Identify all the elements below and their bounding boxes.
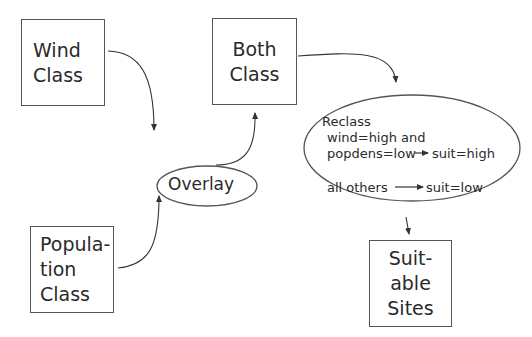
- edge-both-to-reclass: [298, 54, 396, 82]
- edge-reclass-to-suitable: [406, 217, 409, 234]
- both-class-line-1: Both: [232, 37, 276, 62]
- edge-population-to-overlay: [118, 196, 159, 268]
- both-class-node: Both Class: [212, 18, 297, 105]
- reclass-rule1-line1: wind=high and: [327, 130, 426, 145]
- edge-wind-to-overlay: [108, 51, 154, 130]
- wind-class-line-2: Class: [33, 63, 104, 88]
- reclass-rule2-result: suit=low: [426, 180, 483, 195]
- population-class-node: Popula- tion Class: [30, 226, 114, 313]
- population-class-line-1: Popula-: [40, 232, 113, 257]
- reclass-title: Reclass: [322, 114, 371, 129]
- population-class-line-2: tion: [40, 257, 113, 282]
- both-class-line-2: Class: [230, 62, 280, 87]
- reclass-rule2-condition: all others: [327, 180, 388, 195]
- wind-class-line-1: Wind: [33, 38, 104, 63]
- wind-class-node: Wind Class: [21, 19, 105, 106]
- suitable-sites-line-2: able: [390, 271, 431, 296]
- population-class-line-3: Class: [40, 282, 113, 307]
- suitable-sites-node: Suit- able Sites: [369, 240, 452, 327]
- reclass-rule1-condition: popdens=low: [327, 146, 416, 161]
- edge-overlay-to-both: [216, 113, 255, 165]
- reclass-rule1-result: suit=high: [432, 146, 495, 161]
- suitable-sites-line-1: Suit-: [389, 246, 433, 271]
- suitable-sites-line-3: Sites: [387, 296, 433, 321]
- overlay-label: Overlay: [168, 174, 234, 194]
